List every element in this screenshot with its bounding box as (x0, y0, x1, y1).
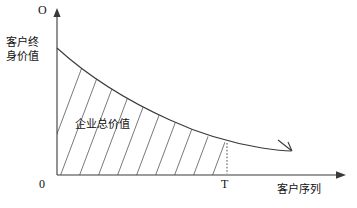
curve-end-arrow-icon (278, 140, 292, 151)
shaded-area-label: 企业总价值 (75, 118, 130, 131)
y-axis-arrow-icon (53, 8, 60, 17)
hatched-area (36, 30, 305, 190)
origin-zero-label: 0 (39, 178, 45, 192)
customer-lifetime-value-figure: O 客户终身价值 企业总价值 0 T 客户序列 (0, 0, 357, 208)
y-axis-title-line-2: 身价值 (6, 50, 39, 64)
y-axis-title: 客户终身价值 (6, 36, 39, 64)
y-axis (53, 8, 60, 175)
x-axis-tick-t-label: T (221, 178, 228, 192)
value-curve (57, 48, 292, 151)
x-axis (57, 171, 346, 179)
y-axis-title-line-1: 客户终 (6, 36, 39, 50)
x-axis-title: 客户序列 (277, 184, 321, 197)
plot-canvas (0, 0, 357, 208)
x-axis-arrow-icon (336, 171, 346, 179)
origin-marker-label: O (38, 4, 47, 18)
